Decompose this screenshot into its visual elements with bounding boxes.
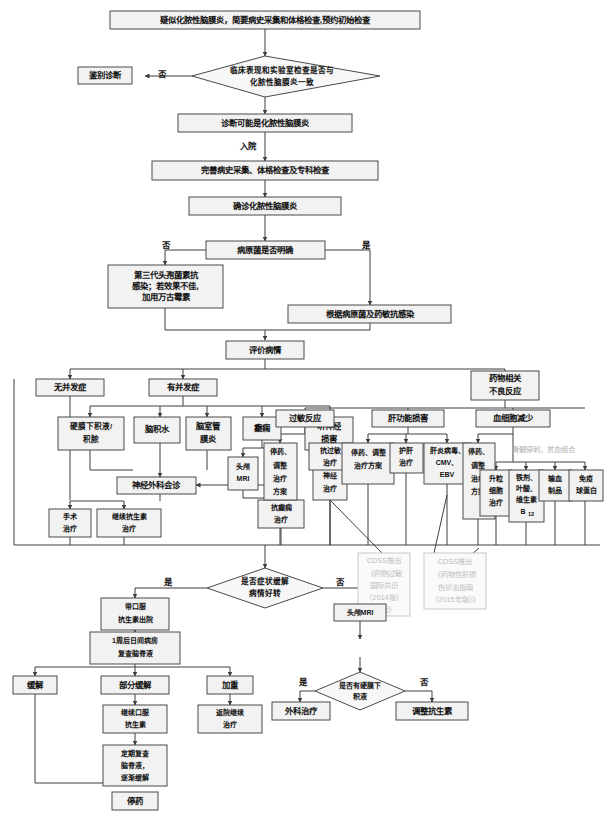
nerve-nutrition-c2: 神经 (323, 471, 337, 480)
node-allergy-reaction: 过敏反应 (276, 410, 334, 427)
worsening-label: 加重 (221, 680, 239, 690)
antiepileptic-line2: 治疗 (274, 515, 288, 524)
stop-drug-label: 停药 (127, 796, 144, 806)
edge-label-yes-2: 是 (361, 240, 371, 250)
oral-abx-line2: 抗生素 (125, 720, 146, 729)
iron-subscript: 12 (528, 511, 534, 517)
empiric-line2: 感染；若效果不佳, (132, 281, 198, 292)
node-epilepsy: 癫痫 (243, 417, 281, 440)
cytopenia-label: 血细胞减少 (493, 413, 534, 423)
hydrocephalus-label: 脑积水 (144, 424, 170, 434)
stop-adjust-c-c2: 调整 (471, 461, 485, 470)
differential-diagnosis-label: 鉴别诊断 (88, 70, 122, 80)
head-mri-line2: MRI (237, 475, 250, 482)
marrow-puncture-note: 骨髓穿刺，贫血组合 (512, 445, 576, 454)
node-readmit-continue-treatment: 返院继续 治疗 (198, 705, 262, 733)
remission-label: 缓解 (27, 680, 44, 690)
node-start-label: 疑似化脓性脑膜炎，简要病史采集和体格检查,预约初始检查 (160, 15, 371, 25)
anti-allergy-line2: 治疗 (323, 458, 337, 467)
node-stop-adjust-allergy: 停药、 调整 治疗 方案 (264, 443, 297, 500)
transfusion-c2: 制品 (548, 486, 562, 495)
edge-label-no-3: 否 (335, 577, 345, 587)
node-stop-drug: 停药 (112, 792, 158, 810)
iron-line3: 维生素 (516, 495, 537, 504)
hepatitis-line2: CMV、 (436, 459, 459, 467)
cdss2-line4: （2015年版）》 (431, 595, 478, 604)
oral-abx-line1: 继续口服 (121, 708, 150, 717)
discharge-line1: 带口服 (125, 602, 147, 611)
pathogen-question-label: 病原菌是否明确 (237, 245, 293, 255)
node-head-mri-2: 头颅MRI (334, 604, 386, 621)
node-surgical-treatment: 外科治疗 (272, 702, 330, 720)
edge-label-yes-3: 是 (163, 577, 173, 587)
subdural-question-line1: 是否有硬膜下 (338, 681, 381, 690)
stop-adjust-b-line2: 治疗方案 (354, 461, 383, 470)
cdss1-line3: 国际共识 (370, 581, 398, 590)
node-blood-transfusion: 输血 制品 (539, 470, 572, 501)
node-probable-diagnosis: 诊断可能是化脓性脑膜炎 (178, 114, 352, 132)
gcsf-c2: 细胞 (489, 486, 503, 495)
edges (14, 29, 600, 786)
cdss1-line4: （2014版） (365, 593, 402, 602)
flowchart-canvas: 疑似化脓性脑膜炎，简要病史采集和体格检查,预约初始检查 临床表现和实验室检查是否… (0, 0, 610, 820)
stop-adjust-c-c1: 停药、 (468, 447, 489, 456)
head-mri-2-label: 头颅MRI (347, 608, 374, 617)
followup-line1: 定期复查 (121, 749, 150, 758)
node-head-mri: 头颅 MRI (228, 457, 258, 490)
node-continue-antibiotics: 继续抗生素 治疗 (97, 509, 161, 537)
edge-label-admit: 入院 (239, 141, 257, 151)
anti-allergy-line1: 抗过敏 (320, 446, 342, 455)
node-differential-diagnosis: 鉴别诊断 (78, 67, 132, 84)
node-periodic-followup: 定期复查 脑脊液， 逐渐缓解 (103, 745, 167, 786)
node-workup: 完善病史采集、体格检查及专科检查 (152, 161, 378, 180)
iron-line4: B (520, 508, 525, 515)
ventriculitis-line2: 膜炎 (200, 434, 217, 444)
node-recheck-csf: 1周后日间病房 复查脑脊液 (90, 632, 180, 664)
subdural-line2: 积脓 (83, 434, 99, 444)
cdss2-line1: CDSS推出 (438, 557, 473, 566)
node-antiepileptic-therapy: 抗癫痫 治疗 (258, 500, 304, 528)
epilepsy-label: 癫痫 (254, 423, 271, 433)
partial-remission-label: 部分缓解 (119, 680, 152, 690)
node-neurosurgery-consult: 神经外科会诊 (117, 477, 196, 494)
liver-protect-line2: 治疗 (399, 458, 413, 467)
node-subdural-effusion: 硬膜下积液/ 积脓 (58, 417, 124, 450)
stop-adjust-b-line1: 停药、调整 (351, 448, 386, 457)
subdural-question-line2: 积液 (353, 692, 368, 701)
edge-label-no-4: 否 (419, 677, 429, 687)
neurosurgery-consult-label: 神经外科会诊 (132, 480, 181, 490)
adjust-antibiotics-label: 调整抗生素 (412, 706, 453, 716)
readmit-line2: 治疗 (223, 720, 237, 729)
node-ivig: 免疫 球蛋白 (569, 470, 603, 501)
followup-line2: 脑脊液， (121, 761, 149, 770)
node-liver-protection: 护肝 治疗 (390, 443, 423, 473)
hepatitis-line3: EBV (440, 471, 455, 478)
stop-adjust-a-c4: 方案 (273, 487, 288, 496)
probable-diagnosis-label: 诊断可能是化脓性脑膜炎 (221, 118, 310, 128)
hepatitis-line1: 肝炎病毒、 (430, 446, 465, 455)
nerve-nutrition-c3: 治疗 (323, 484, 337, 493)
cdss2-line2: 《药物性肝损 (434, 570, 477, 579)
confirmed-diagnosis-label: 确诊化脓性脑膜炎 (233, 201, 298, 211)
continue-abx-line1: 继续抗生素 (112, 512, 147, 521)
head-mri-line1: 头颅 (236, 462, 250, 471)
node-no-complication: 无并发症 (36, 379, 104, 396)
node-improvement-question: 是否症状缓解 病情好转 (207, 568, 323, 608)
node-remission: 缓解 (13, 676, 57, 694)
evaluate-label: 评价病情 (249, 345, 282, 355)
node-surgery-treatment: 手术 治疗 (49, 509, 91, 537)
ivig-c2: 球蛋白 (576, 486, 597, 495)
node-evaluate-condition: 评价病情 (226, 341, 304, 359)
node-continue-oral-antibiotics: 继续口服 抗生素 (103, 705, 167, 733)
recheck-line1: 1周后日间病房 (112, 636, 158, 645)
edge-label-yes-4: 是 (298, 677, 308, 687)
node-discharge-with-oral-abx: 带口服 抗生素出院 (101, 598, 169, 630)
node-drug-adverse-reaction: 药物相关 不良反应 (471, 371, 539, 400)
surgery-line2: 治疗 (63, 524, 77, 533)
targeted-label: 根据病原菌及药敏抗感染 (326, 309, 415, 319)
stop-adjust-a-c3: 治疗 (273, 474, 287, 483)
antiepileptic-line1: 抗癫痫 (271, 503, 292, 512)
drug-ae-line2: 不良反应 (489, 386, 522, 396)
discharge-line2: 抗生素出院 (118, 615, 153, 624)
drug-ae-line1: 药物相关 (489, 373, 522, 383)
